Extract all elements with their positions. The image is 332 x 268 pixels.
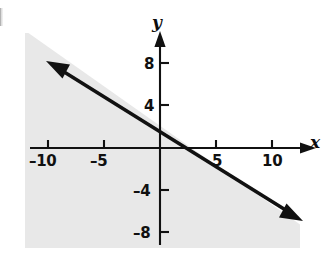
x-tick-label-neg10: –10	[29, 152, 56, 170]
y-axis-label: y	[152, 12, 162, 32]
x-tick-label-10: 10	[262, 152, 282, 170]
y-tick-label-8: 8	[144, 55, 154, 73]
x-tick-label-neg5: –5	[90, 152, 107, 170]
x-axis-label: x	[310, 132, 320, 152]
y-tick-label-neg8: –8	[133, 224, 150, 242]
coordinate-plane	[0, 0, 332, 268]
graph-figure: y x –10 –5 5 10 8 4 –4 –8	[0, 0, 332, 268]
x-tick-label-5: 5	[212, 152, 222, 170]
y-tick-label-4: 4	[144, 97, 154, 115]
y-tick-label-neg4: –4	[133, 182, 150, 200]
